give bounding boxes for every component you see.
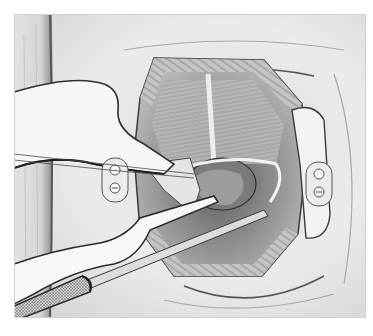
right-retractor-screw-1 <box>314 169 324 179</box>
wound-edge-bottom <box>174 264 262 276</box>
surgical-illustration <box>14 14 366 318</box>
illustration-frame <box>14 14 366 318</box>
wound-edge-top <box>154 58 264 72</box>
